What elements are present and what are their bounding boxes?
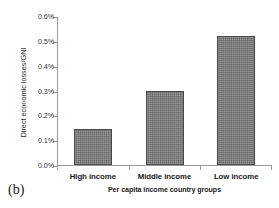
x-tick-mark [200,166,201,170]
y-tick: 0.1% [57,141,58,142]
plot-area: 0.0%0.1%0.2%0.3%0.4%0.5%0.6% [57,17,272,166]
y-tick-label: 0.2% [38,111,54,120]
x-axis-title: Per capita income country groups [57,186,272,194]
y-tick: 0.4% [57,67,58,68]
y-tick-label: 0.5% [38,37,54,46]
y-tick: 0.5% [57,42,58,43]
y-tick-label: 0.1% [38,136,54,145]
x-category-label: Low income [186,172,279,181]
y-axis-title: Direct economic losses/GNI [19,18,28,168]
bar [74,129,112,165]
y-tick-label: 0.4% [38,62,54,71]
bar [146,91,184,166]
y-tick: 0.6% [57,17,58,18]
y-tick-label: 0.0% [38,161,54,170]
x-tick-mark [129,166,130,170]
y-tick-label: 0.3% [38,87,54,96]
x-axis-line [57,165,272,166]
chart-figure: Direct economic losses/GNI 0.0%0.1%0.2%0… [0,0,279,208]
y-tick-label: 0.6% [38,12,54,21]
bar [217,36,255,165]
panel-caption: (b) [8,182,24,198]
x-tick-mark [57,166,58,170]
x-tick-mark [271,166,272,170]
y-tick: 0.2% [57,116,58,117]
y-tick: 0.3% [57,92,58,93]
